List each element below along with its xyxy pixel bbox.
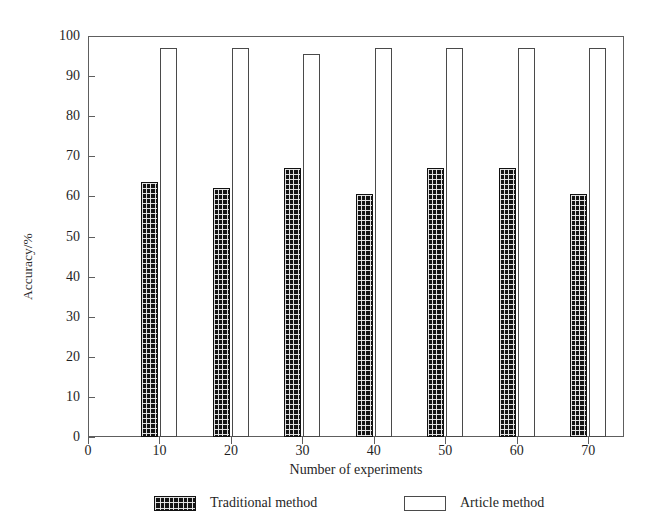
x-tick-label: 20: [211, 444, 251, 458]
bar-article-40: [375, 48, 392, 437]
bar-traditional-60: [499, 168, 516, 437]
y-tick-label: 100: [44, 29, 80, 43]
bar-chart-figure: Accuracy/% 0102030405060708090100 010203…: [0, 0, 654, 527]
x-tick-label: 50: [425, 444, 465, 458]
y-tick-label: 40: [44, 270, 80, 284]
y-tick-label: 20: [44, 350, 80, 364]
y-tick-mark: [88, 237, 95, 238]
y-tick-mark: [88, 36, 95, 37]
bar-traditional-20: [213, 188, 230, 437]
y-tick-label: 80: [44, 109, 80, 123]
bar-article-50: [446, 48, 463, 437]
bar-traditional-30: [284, 168, 301, 437]
legend-swatch-traditional-icon: [154, 496, 196, 511]
y-tick-mark: [88, 437, 95, 438]
x-tick-label: 60: [497, 444, 537, 458]
legend-label-traditional: Traditional method: [210, 495, 317, 511]
y-tick-mark: [88, 277, 95, 278]
legend-entry-traditional: Traditional method: [154, 492, 317, 514]
bar-traditional-10: [141, 182, 158, 437]
y-tick-mark: [88, 397, 95, 398]
y-tick-mark: [88, 357, 95, 358]
x-tick-label: 10: [139, 444, 179, 458]
y-tick-mark: [88, 116, 95, 117]
bar-article-10: [160, 48, 177, 437]
bar-article-60: [518, 48, 535, 437]
y-tick-mark: [88, 156, 95, 157]
y-tick-label: 30: [44, 310, 80, 324]
y-tick-mark: [88, 76, 95, 77]
x-tick-label: 40: [354, 444, 394, 458]
legend-label-article: Article method: [460, 495, 544, 511]
legend-swatch-article-icon: [404, 496, 446, 511]
y-tick-label: 60: [44, 189, 80, 203]
x-tick-label: 0: [68, 444, 108, 458]
y-axis-title-text: Accuracy/%: [20, 233, 36, 300]
y-tick-mark: [88, 317, 95, 318]
chart-legend: Traditional method Article method: [88, 492, 624, 518]
x-axis-title: Number of experiments: [88, 462, 624, 478]
y-tick-label: 90: [44, 69, 80, 83]
x-tick-label: 70: [568, 444, 608, 458]
y-tick-mark: [88, 196, 95, 197]
y-tick-label: 70: [44, 149, 80, 163]
bar-article-70: [589, 48, 606, 437]
y-tick-label: 0: [44, 430, 80, 444]
y-tick-label: 50: [44, 230, 80, 244]
bar-traditional-40: [356, 194, 373, 437]
bar-traditional-70: [570, 194, 587, 437]
bar-article-20: [232, 48, 249, 437]
bar-article-30: [303, 54, 320, 437]
y-tick-label: 10: [44, 390, 80, 404]
bar-traditional-50: [427, 168, 444, 437]
x-tick-label: 30: [282, 444, 322, 458]
legend-entry-article: Article method: [404, 492, 544, 514]
